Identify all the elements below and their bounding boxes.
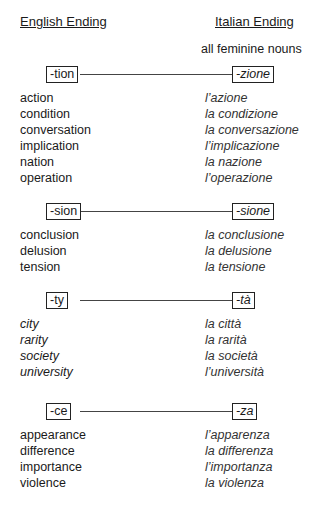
english-word: operation [20,170,72,186]
feminine-nouns-note: all feminine nouns [201,42,302,56]
word-pair: universityl’università [0,364,326,380]
connector-line [80,211,232,212]
english-word: conclusion [20,227,79,243]
english-ending-header: English Ending [20,14,107,29]
word-pair: conclusionla conclusione [0,227,326,243]
english-ending-box: -sion [46,203,81,220]
connector-line [80,300,232,301]
italian-word: l’implicazione [205,138,279,154]
english-word: condition [20,106,70,122]
word-pair: appearancel’apparenza [0,427,326,443]
section-sion: -sion -sione conclusionla conclusione de… [0,203,326,275]
word-pair: conversationla conversazione [0,122,326,138]
italian-ending-box: -tà [232,292,255,309]
english-word: university [20,364,73,380]
italian-ending-box: -sione [232,203,274,220]
italian-ending-box: -zione [232,66,274,83]
italian-word: l’università [205,364,264,380]
section-ce: -ce -za appearancel’apparenza difference… [0,403,326,491]
english-ending-box: -tion [46,66,78,83]
italian-word: l’operazione [205,170,272,186]
english-word: conversation [20,122,91,138]
italian-ending-box: -za [232,403,257,420]
word-pair: tensionla tensione [0,259,326,275]
word-pair: societyla società [0,348,326,364]
italian-word: l’importanza [205,459,272,475]
word-pair: delusionla delusione [0,243,326,259]
word-pair: violencela violenza [0,475,326,491]
word-pair: operationl’operazione [0,170,326,186]
italian-word: la tensione [205,259,265,275]
italian-word: la condizione [205,106,278,122]
english-word: action [20,90,53,106]
italian-word: la città [205,316,241,332]
english-word: rarity [20,332,48,348]
word-pair: conditionla condizione [0,106,326,122]
word-pair: implicationl’implicazione [0,138,326,154]
italian-word: la violenza [205,475,264,491]
english-word: violence [20,475,66,491]
english-word: difference [20,443,75,459]
italian-word: la rarità [205,332,247,348]
word-pair: differencela differenza [0,443,326,459]
english-word: nation [20,154,54,170]
word-pair: cityla città [0,316,326,332]
english-word: tension [20,259,60,275]
english-word: implication [20,138,79,154]
italian-ending-header: Italian Ending [215,14,294,29]
english-word: importance [20,459,82,475]
italian-word: la delusione [205,243,272,259]
section-tion: -tion -zione actionl’azione conditionla … [0,66,326,186]
section-ty: -ty -tà cityla città rarityla rarità soc… [0,292,326,380]
italian-word: l’apparenza [205,427,270,443]
english-word: society [20,348,59,364]
english-ending-box: -ce [46,403,71,420]
italian-word: l’azione [205,90,247,106]
connector-line [80,411,232,412]
italian-word: la nazione [205,154,262,170]
connector-line [80,74,232,75]
english-word: delusion [20,243,67,259]
english-ending-box: -ty [46,292,68,309]
word-pair: nationla nazione [0,154,326,170]
italian-word: la conclusione [205,227,284,243]
italian-word: la conversazione [205,122,299,138]
italian-word: la società [205,348,258,364]
italian-word: la differenza [205,443,273,459]
word-pair: actionl’azione [0,90,326,106]
word-pair: rarityla rarità [0,332,326,348]
english-word: city [20,316,39,332]
english-word: appearance [20,427,86,443]
word-pair: importancel’importanza [0,459,326,475]
